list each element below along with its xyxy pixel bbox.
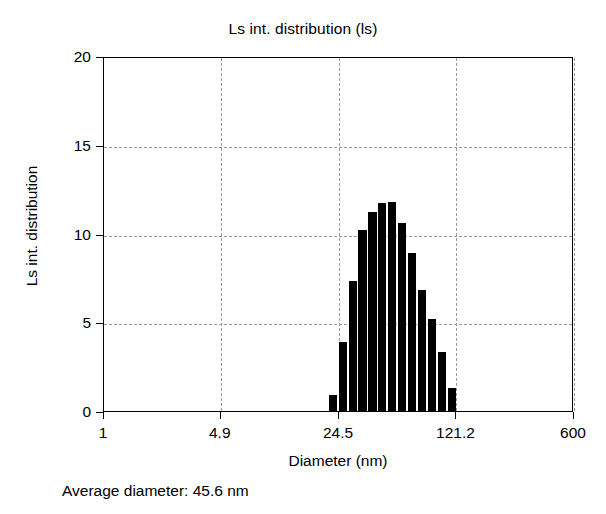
bar xyxy=(418,290,426,411)
gridline-vertical xyxy=(574,58,575,411)
bar xyxy=(368,212,376,411)
bar xyxy=(329,395,337,411)
y-tick-label: 0 xyxy=(53,404,91,420)
y-tick-mark xyxy=(96,412,103,413)
x-tick-label: 1 xyxy=(63,425,143,441)
bar-series xyxy=(104,58,572,411)
x-tick-label: 121.2 xyxy=(415,425,495,441)
y-tick-label: 15 xyxy=(53,138,91,154)
x-tick-label: 24.5 xyxy=(298,425,378,441)
x-tick-mark xyxy=(220,412,221,419)
bar xyxy=(408,253,416,411)
bar xyxy=(438,352,446,411)
bar xyxy=(398,223,406,411)
bar xyxy=(428,319,436,411)
bar xyxy=(388,202,396,411)
x-tick-label: 4.9 xyxy=(180,425,260,441)
x-tick-mark xyxy=(573,412,574,419)
bar xyxy=(358,230,366,411)
x-tick-mark xyxy=(103,412,104,419)
y-tick-label: 20 xyxy=(53,49,91,65)
y-tick-mark xyxy=(96,146,103,147)
chart-figure: Ls int. distribution (ls) Ls int. distri… xyxy=(0,0,606,514)
y-tick-mark xyxy=(96,323,103,324)
y-tick-label: 10 xyxy=(53,227,91,243)
x-tick-label: 600 xyxy=(533,425,606,441)
y-tick-label: 5 xyxy=(53,315,91,331)
plot-area xyxy=(103,57,573,412)
y-tick-mark xyxy=(96,57,103,58)
bar xyxy=(349,281,357,411)
average-diameter-caption: Average diameter: 45.6 nm xyxy=(62,482,249,500)
y-tick-mark xyxy=(96,235,103,236)
bar xyxy=(448,388,456,411)
x-tick-mark xyxy=(455,412,456,419)
chart-title: Ls int. distribution (ls) xyxy=(0,20,606,38)
bar xyxy=(339,342,347,411)
x-axis-title: Diameter (nm) xyxy=(103,452,573,470)
y-axis-title: Ls int. distribution xyxy=(23,111,41,341)
bar xyxy=(378,203,386,411)
x-tick-mark xyxy=(338,412,339,419)
